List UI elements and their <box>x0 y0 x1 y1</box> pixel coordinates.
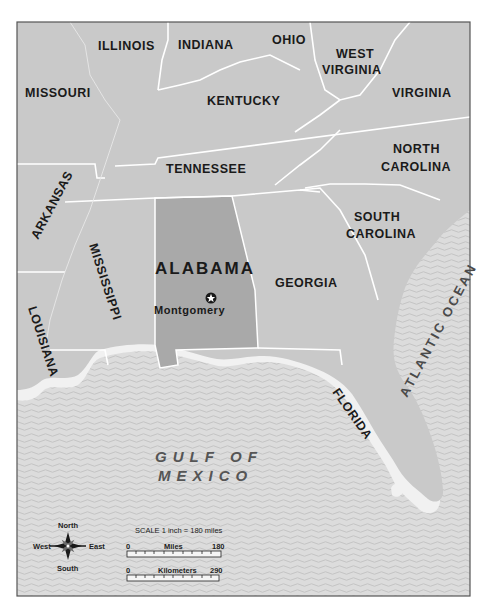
scale-title: SCALE 1 inch = 180 miles <box>135 526 223 535</box>
scale-km-label: Kilometers <box>158 566 197 575</box>
label-illinois: ILLINOIS <box>98 39 155 53</box>
label-missouri: MISSOURI <box>25 86 91 100</box>
label-gulf-of-mexico-1: GULF OF <box>155 448 263 465</box>
compass-south: South <box>57 564 79 573</box>
label-ohio: OHIO <box>272 33 306 47</box>
label-south-carolina-2: CAROLINA <box>346 227 416 241</box>
label-montgomery: Montgomery <box>154 304 225 316</box>
compass-east: East <box>89 542 105 551</box>
label-tennessee: TENNESSEE <box>166 162 246 176</box>
label-georgia: GEORGIA <box>275 276 338 290</box>
label-west-virginia-2: VIRGINIA <box>322 63 382 77</box>
scale-bar-miles <box>127 551 221 557</box>
label-south-carolina-1: SOUTH <box>354 210 400 224</box>
label-west-virginia-1: WEST <box>336 47 374 61</box>
scale-km-start: 0 <box>126 566 130 575</box>
scale-km-end: 290 <box>210 566 223 575</box>
scale-miles-label: Miles <box>164 542 183 551</box>
label-kentucky: KENTUCKY <box>207 94 281 108</box>
label-alabama: ALABAMA <box>155 259 255 278</box>
label-virginia: VIRGINIA <box>392 86 452 100</box>
map-canvas: ILLINOIS INDIANA OHIO WEST VIRGINIA MISS… <box>0 0 485 613</box>
label-north-carolina-2: CAROLINA <box>381 160 451 174</box>
compass-west: West <box>33 542 51 551</box>
compass-north: North <box>58 521 78 530</box>
label-indiana: INDIANA <box>178 38 234 52</box>
scale-miles-start: 0 <box>126 542 130 551</box>
label-gulf-of-mexico-2: MEXICO <box>158 467 253 484</box>
scale-bar-kilometers <box>127 575 219 581</box>
capital-marker[interactable] <box>206 293 217 304</box>
label-north-carolina-1: NORTH <box>393 142 440 156</box>
scale-miles-end: 180 <box>212 542 225 551</box>
